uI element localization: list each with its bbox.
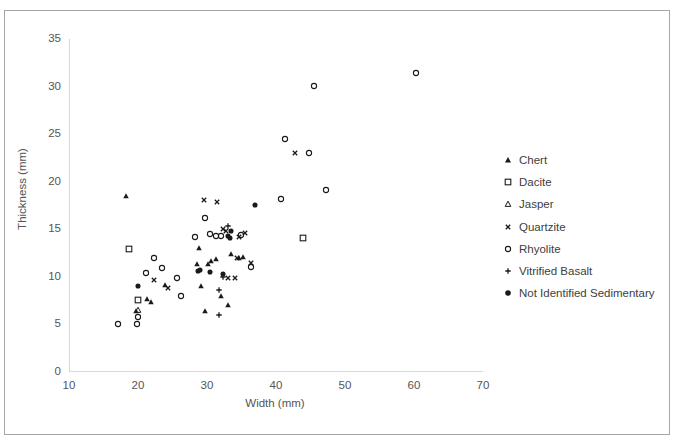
legend-item-vitrified-basalt: Vitrified Basalt bbox=[501, 260, 677, 282]
legend-item-rhyolite: Rhyolite bbox=[501, 238, 677, 260]
legend-item-quartzite: Quartzite bbox=[501, 216, 677, 238]
data-point bbox=[200, 196, 208, 204]
data-point bbox=[251, 202, 259, 210]
filled-circle-icon bbox=[501, 286, 515, 300]
data-point bbox=[158, 264, 166, 272]
data-point bbox=[412, 69, 420, 77]
open-circle-icon bbox=[501, 242, 515, 256]
data-point bbox=[219, 270, 227, 278]
data-point bbox=[201, 307, 209, 315]
legend-item-jasper: Jasper bbox=[501, 193, 677, 215]
cross-x-icon bbox=[501, 220, 515, 234]
legend-item-label: Rhyolite bbox=[519, 242, 561, 256]
chart-legend: ChertDaciteJasperQuartziteRhyoliteVitrif… bbox=[501, 149, 677, 304]
data-point bbox=[212, 256, 220, 264]
legend-item-label: Chert bbox=[519, 153, 547, 167]
data-point bbox=[201, 214, 209, 222]
data-point bbox=[322, 186, 330, 194]
data-point bbox=[196, 266, 204, 274]
data-point bbox=[134, 282, 142, 290]
data-point bbox=[177, 292, 185, 300]
data-point bbox=[247, 263, 255, 271]
data-point bbox=[226, 234, 234, 242]
data-point bbox=[134, 313, 142, 321]
data-point bbox=[150, 276, 158, 284]
data-point bbox=[164, 284, 172, 292]
filled-triangle-icon bbox=[501, 153, 515, 167]
data-point bbox=[114, 320, 122, 328]
data-point bbox=[196, 244, 204, 252]
data-point bbox=[134, 296, 142, 304]
open-triangle-icon bbox=[501, 197, 515, 211]
plus-icon bbox=[501, 264, 515, 278]
open-square-icon bbox=[501, 175, 515, 189]
chart-figure: 05101520253035 10203040506070 Thickness … bbox=[4, 10, 670, 435]
data-point bbox=[215, 311, 223, 319]
data-point bbox=[173, 274, 181, 282]
legend-item-label: Jasper bbox=[519, 197, 554, 211]
legend-item-label: Quartzite bbox=[519, 220, 566, 234]
data-point bbox=[213, 198, 221, 206]
data-point bbox=[207, 268, 215, 276]
data-point bbox=[310, 82, 318, 90]
data-point bbox=[142, 269, 150, 277]
plot-area: 05101520253035 10203040506070 Thickness … bbox=[5, 11, 671, 436]
data-point bbox=[227, 227, 235, 235]
data-point bbox=[191, 233, 199, 241]
data-point bbox=[277, 195, 285, 203]
data-point bbox=[291, 149, 299, 157]
data-point bbox=[198, 282, 206, 290]
data-point bbox=[147, 298, 155, 306]
data-point bbox=[150, 254, 158, 262]
legend-item-label: Vitrified Basalt bbox=[519, 264, 592, 278]
data-point bbox=[305, 149, 313, 157]
legend-item-label: Dacite bbox=[519, 175, 552, 189]
legend-item-chert: Chert bbox=[501, 149, 677, 171]
data-point bbox=[233, 254, 241, 262]
data-point bbox=[299, 234, 307, 242]
data-point bbox=[215, 286, 223, 294]
legend-item-dacite: Dacite bbox=[501, 171, 677, 193]
legend-item-label: Not Identified Sedimentary bbox=[519, 286, 655, 300]
data-point bbox=[231, 274, 239, 282]
data-point bbox=[225, 301, 233, 309]
legend-item-not-identified-sedimentary: Not Identified Sedimentary bbox=[501, 282, 677, 304]
data-point bbox=[125, 245, 133, 253]
data-point bbox=[237, 231, 245, 239]
data-point bbox=[123, 192, 131, 200]
data-point bbox=[281, 135, 289, 143]
